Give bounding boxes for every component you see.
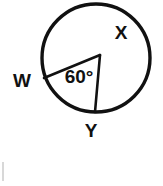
point-label-w: W [13, 70, 31, 91]
page-edge-artifact [2, 162, 4, 181]
figure-canvas: 60° W X Y [0, 0, 163, 186]
angle-measure-label: 60° [65, 66, 94, 87]
radius-to-y-line [95, 55, 100, 112]
circle-angle-diagram: 60° W X Y [0, 0, 163, 186]
point-label-y: Y [85, 120, 98, 141]
point-label-x: X [115, 22, 128, 43]
